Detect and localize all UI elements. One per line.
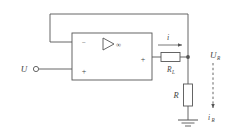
sense-current-label: i xyxy=(208,113,210,122)
opamp-output-label: + xyxy=(141,55,146,64)
load-resistor-body xyxy=(161,53,180,62)
ground-symbol xyxy=(178,120,198,126)
output-voltage-subscript: R xyxy=(216,55,221,61)
sense-resistor: R xyxy=(172,84,192,106)
output-current-label: i xyxy=(167,33,169,42)
load-resistor-subscript: L xyxy=(171,69,175,75)
load-resistor: R L xyxy=(161,53,180,76)
sense-resistor-body xyxy=(184,84,193,106)
circuit-diagram: ∞ − + + U R L i xyxy=(0,0,232,133)
opamp-noninverting-input-label: + xyxy=(82,67,87,76)
output-voltage-indicator: U R i R xyxy=(208,50,221,123)
input-terminal xyxy=(33,66,38,71)
opamp-gain-symbol: ∞ xyxy=(116,41,121,49)
sense-resistor-label: R xyxy=(172,90,179,100)
sense-current-subscript: R xyxy=(211,117,216,123)
source-voltage-label: U xyxy=(21,64,28,74)
operational-amplifier: ∞ − + + xyxy=(72,33,152,80)
output-voltage-label: U xyxy=(210,50,217,60)
opamp-inverting-input-label: − xyxy=(82,39,86,47)
output-current-arrow: i xyxy=(158,33,182,45)
